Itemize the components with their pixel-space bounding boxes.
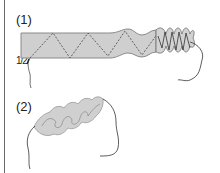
diagram-frame: (1) (2) 1/2 <box>0 0 220 173</box>
step-1-ribbon <box>21 28 203 88</box>
ribbon-illustration <box>0 0 220 173</box>
step-2-gathered-ribbon <box>27 97 118 169</box>
